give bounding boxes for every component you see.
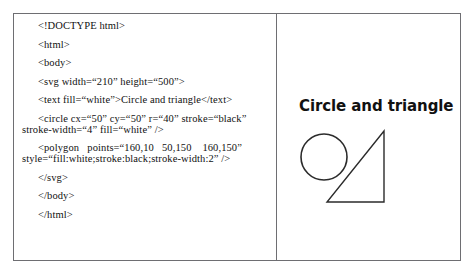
code-line-group: </body> — [22, 190, 270, 201]
code-line-group: </svg> — [22, 172, 270, 183]
render-title-text: Circle and triangle — [299, 98, 453, 114]
code-line-group: <body> — [22, 57, 270, 68]
code-line-group: <text fill=“white”>Circle and triangle</… — [22, 94, 270, 105]
rendered-svg-graphic — [295, 114, 435, 210]
code-line-text-element: <text fill=“white”>Circle and triangle</… — [22, 94, 270, 105]
code-panel: <!DOCTYPE html> <html> <body> <svg width… — [14, 14, 277, 260]
code-line-group-polygon: <polygon points=“160,10 50,150 160,150” … — [22, 142, 270, 164]
render-output-panel: Circle and triangle — [277, 14, 460, 260]
code-line-group: <html> — [22, 39, 270, 50]
code-line-svg-open: <svg width=“210” height=“500”> — [22, 76, 270, 87]
code-line-group: </html> — [22, 209, 270, 220]
code-line-doctype: <!DOCTYPE html> — [22, 20, 270, 31]
code-line-group-circle: <circle cx=“50” cy=“50” r=“40” stroke=“b… — [22, 113, 270, 135]
code-line-polygon-part1: <polygon points=“160,10 50,150 160,150” — [22, 142, 270, 153]
figure-container: <!DOCTYPE html> <html> <body> <svg width… — [13, 13, 461, 261]
code-line-group: <!DOCTYPE html> — [22, 20, 270, 31]
code-line-svg-close: </svg> — [22, 172, 270, 183]
code-line-html-open: <html> — [22, 39, 270, 50]
code-line-html-close: </html> — [22, 209, 270, 220]
circle-shape — [301, 134, 347, 180]
code-line-polygon-part2: style=“fill:white;stroke:black;stroke-wi… — [22, 153, 270, 164]
code-line-body-open: <body> — [22, 57, 270, 68]
code-line-group: <svg width=“210” height=“500”> — [22, 76, 270, 87]
code-line-body-close: </body> — [22, 190, 270, 201]
code-line-circle-part2: stroke-width=“4” fill=“white” /> — [22, 124, 270, 135]
code-line-circle-part1: <circle cx=“50” cy=“50” r=“40” stroke=“b… — [22, 113, 270, 124]
